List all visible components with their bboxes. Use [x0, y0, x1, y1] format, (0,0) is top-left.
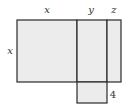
label-top-y: y	[87, 4, 94, 15]
label-top-x: x	[44, 4, 50, 15]
area-diagram: x y z x 4	[0, 0, 133, 110]
rect-y-by-4	[77, 82, 107, 103]
rect-z-by-x	[107, 20, 121, 82]
label-top-z: z	[110, 4, 117, 15]
rect-x-by-x	[17, 20, 77, 82]
label-bottom-4: 4	[110, 89, 116, 100]
rect-y-by-x	[77, 20, 107, 82]
label-left-x: x	[7, 45, 13, 56]
